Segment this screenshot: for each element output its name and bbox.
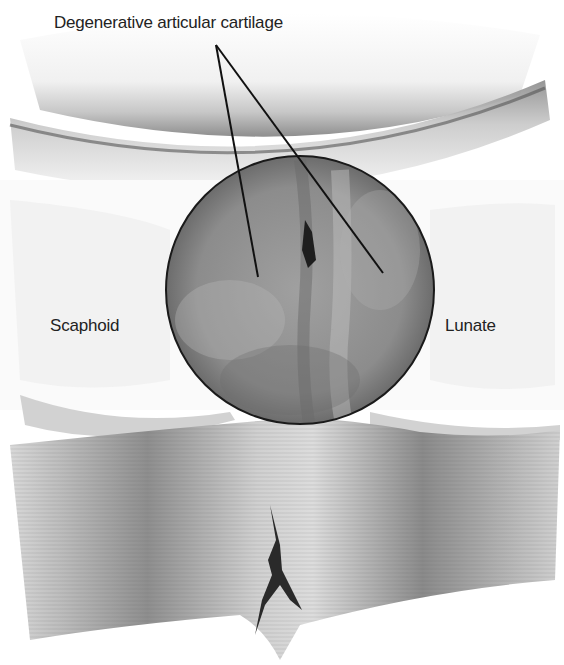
label-scaphoid: Scaphoid bbox=[50, 316, 119, 336]
label-lunate: Lunate bbox=[445, 316, 496, 336]
label-degenerative-cartilage: Degenerative articular cartilage bbox=[54, 13, 283, 33]
anatomy-figure: Degenerative articular cartilage Scaphoi… bbox=[0, 0, 564, 665]
